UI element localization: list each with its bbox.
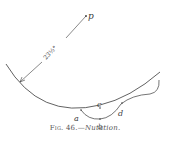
pole-label: p — [88, 11, 94, 21]
pole-line-lower — [20, 62, 42, 82]
caption-separator: — — [78, 124, 85, 132]
label-c: c — [97, 100, 102, 109]
point-b — [99, 118, 101, 120]
main-arc — [6, 64, 160, 108]
caption-number: Fig. 46. — [50, 124, 78, 132]
figure-caption: Fig. 46.—Nutation. — [0, 124, 170, 132]
caption-title: Nutation. — [85, 124, 120, 132]
nutation-diagram: p 23½° a b c d — [0, 0, 170, 144]
label-d: d — [118, 109, 123, 118]
angle-label: 23½° — [42, 44, 58, 61]
pole-line-upper — [66, 16, 86, 38]
point-a — [80, 109, 82, 111]
pole-point — [85, 15, 87, 17]
label-a: a — [74, 114, 79, 123]
point-d — [121, 102, 123, 104]
